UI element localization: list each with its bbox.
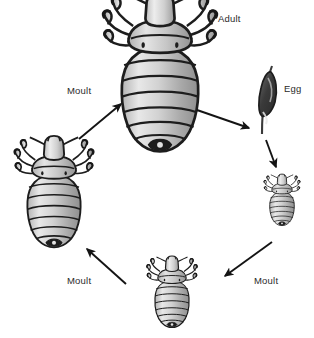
stage-nymph-3 bbox=[15, 136, 94, 248]
arrow-adult-to-egg bbox=[197, 110, 249, 128]
life-cycle-diagram: Adult Egg Moult Moult Moult bbox=[0, 0, 314, 338]
label-moult-nymph3-to-adult: Moult bbox=[67, 85, 91, 96]
label-moult-nymph2-to-nymph3: Moult bbox=[67, 275, 91, 286]
diagram-canvas bbox=[0, 0, 314, 338]
label-adult: Adult bbox=[218, 13, 241, 24]
stage-adult bbox=[103, 0, 216, 152]
arrow-egg-to-nymph1 bbox=[266, 140, 276, 167]
arrow-nymph3-to-adult bbox=[79, 104, 121, 139]
label-moult-nymph1-to-nymph2: Moult bbox=[254, 275, 278, 286]
stage-nymph-1 bbox=[264, 174, 300, 225]
stage-egg bbox=[259, 66, 277, 134]
stage-nymph-2 bbox=[147, 256, 198, 328]
label-egg: Egg bbox=[284, 83, 302, 94]
arrow-nymph1-to-nymph2 bbox=[225, 242, 272, 276]
arrow-nymph2-to-nymph3 bbox=[87, 249, 126, 284]
